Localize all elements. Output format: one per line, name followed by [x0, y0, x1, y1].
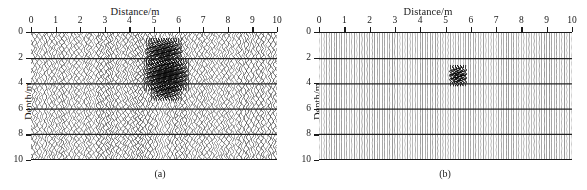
panel-b-x-tick-4 — [420, 27, 421, 32]
panel-b-x-tick-1 — [344, 27, 345, 32]
panel-a-x-label-2: 2 — [72, 15, 88, 26]
panel-b-y-label-0: 0 — [293, 26, 311, 37]
panel-a-wiggle-traces — [31, 33, 277, 159]
panel-a-x-tick-4 — [129, 27, 130, 32]
panel-b-x-tick-10 — [572, 27, 573, 32]
panel-b-x-tick-9 — [547, 27, 548, 32]
panel-a-x-label-3: 3 — [97, 15, 113, 26]
panel-a-y-label-2: 2 — [5, 52, 23, 63]
panel-a-x-tick-10 — [277, 27, 278, 32]
panel-a-caption: (a) — [130, 168, 190, 179]
panel-a-y-ticks: 0246810 — [26, 32, 31, 160]
panel-b-y-tick-10 — [314, 160, 319, 161]
panel-b-y-ticks: 0246810 — [314, 32, 319, 160]
panel-b: Distance/m Depth/m 012345678910 0246810 … — [293, 0, 586, 190]
panel-a-x-tick-5 — [154, 27, 155, 32]
panel-b-x-tick-8 — [521, 27, 522, 32]
panel-a-y-tick-0 — [26, 32, 31, 33]
panel-b-x-label-2: 2 — [362, 15, 378, 26]
panel-b-wiggle-traces — [319, 33, 572, 159]
panel-b-x-ticks: 012345678910 — [319, 27, 572, 32]
panel-a-x-tick-6 — [179, 27, 180, 32]
panel-a-x-ticks: 012345678910 — [31, 27, 277, 32]
panel-b-x-label-1: 1 — [336, 15, 352, 26]
panel-b-plot-area — [319, 32, 572, 160]
panel-b-y-tick-0 — [314, 32, 319, 33]
panel-a-y-tick-6 — [26, 109, 31, 110]
panel-a-y-label-10: 10 — [5, 154, 23, 165]
panel-b-x-tick-5 — [446, 27, 447, 32]
panel-b-x-tick-6 — [471, 27, 472, 32]
panel-a-x-tick-1 — [56, 27, 57, 32]
panel-a-x-tick-2 — [80, 27, 81, 32]
panel-a-y-tick-2 — [26, 58, 31, 59]
panel-a-y-label-4: 4 — [5, 77, 23, 88]
panel-b-x-label-8: 8 — [513, 15, 529, 26]
panel-a: Distance/m Depth/m 012345678910 0246810 … — [0, 0, 293, 190]
panel-b-x-label-9: 9 — [539, 15, 555, 26]
panel-b-y-label-8: 8 — [293, 128, 311, 139]
panel-b-y-tick-4 — [314, 83, 319, 84]
panel-a-plot-area — [31, 32, 277, 160]
panel-b-x-label-0: 0 — [311, 15, 327, 26]
panel-b-x-label-4: 4 — [412, 15, 428, 26]
panel-b-y-label-4: 4 — [293, 77, 311, 88]
panel-a-y-tick-10 — [26, 160, 31, 161]
panel-a-x-tick-8 — [228, 27, 229, 32]
panel-a-x-tick-7 — [203, 27, 204, 32]
panel-a-y-label-8: 8 — [5, 128, 23, 139]
panel-a-x-label-8: 8 — [220, 15, 236, 26]
panel-b-y-tick-8 — [314, 134, 319, 135]
panel-a-x-label-10: 10 — [269, 15, 285, 26]
panel-b-x-label-6: 6 — [463, 15, 479, 26]
panel-b-x-label-7: 7 — [488, 15, 504, 26]
panel-a-x-label-7: 7 — [195, 15, 211, 26]
panel-b-x-label-10: 10 — [564, 15, 580, 26]
panel-b-caption: (b) — [415, 168, 475, 179]
panel-a-x-label-1: 1 — [48, 15, 64, 26]
panel-a-x-label-6: 6 — [171, 15, 187, 26]
panel-a-y-label-6: 6 — [5, 103, 23, 114]
panel-b-x-tick-2 — [370, 27, 371, 32]
panel-b-y-tick-2 — [314, 58, 319, 59]
panel-b-y-label-10: 10 — [293, 154, 311, 165]
panel-b-x-tick-7 — [496, 27, 497, 32]
panel-a-x-label-5: 5 — [146, 15, 162, 26]
panel-a-x-tick-0 — [31, 27, 32, 32]
panel-a-x-label-0: 0 — [23, 15, 39, 26]
panel-b-y-label-6: 6 — [293, 103, 311, 114]
panel-a-x-tick-9 — [252, 27, 253, 32]
panel-b-y-tick-6 — [314, 109, 319, 110]
gpr-figure: Distance/m Depth/m 012345678910 0246810 … — [0, 0, 587, 190]
panel-b-y-label-2: 2 — [293, 52, 311, 63]
panel-b-x-tick-3 — [395, 27, 396, 32]
panel-a-x-label-4: 4 — [121, 15, 137, 26]
panel-a-y-tick-4 — [26, 83, 31, 84]
panel-a-x-tick-3 — [105, 27, 106, 32]
panel-a-x-label-9: 9 — [244, 15, 260, 26]
panel-b-x-label-3: 3 — [387, 15, 403, 26]
panel-b-x-label-5: 5 — [438, 15, 454, 26]
panel-b-x-tick-0 — [319, 27, 320, 32]
panel-a-y-tick-8 — [26, 134, 31, 135]
panel-a-y-label-0: 0 — [5, 26, 23, 37]
